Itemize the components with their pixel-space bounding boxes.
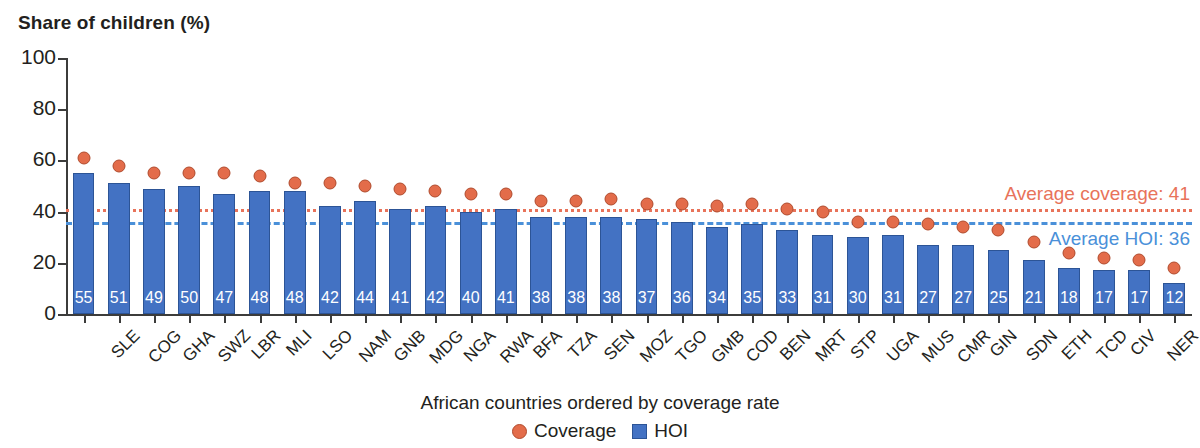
bar[interactable]: 30 bbox=[847, 237, 869, 314]
bar-value-label: 38 bbox=[566, 289, 586, 307]
x-axis-tick bbox=[224, 315, 226, 323]
coverage-dot[interactable] bbox=[710, 200, 723, 213]
x-axis-label-mdg: MDG bbox=[426, 326, 468, 368]
bar[interactable]: 12 bbox=[1163, 283, 1185, 314]
bar[interactable]: 41 bbox=[389, 209, 411, 314]
x-axis-tick bbox=[189, 315, 191, 323]
coverage-dot[interactable] bbox=[640, 197, 653, 210]
y-axis-title: Share of children (%) bbox=[18, 12, 210, 34]
x-axis-label-tza: TZA bbox=[564, 326, 601, 363]
bar[interactable]: 27 bbox=[917, 245, 939, 314]
coverage-dot[interactable] bbox=[816, 205, 829, 218]
coverage-dot[interactable] bbox=[922, 218, 935, 231]
bar-value-label: 33 bbox=[777, 289, 797, 307]
coverage-dot[interactable] bbox=[499, 187, 512, 200]
coverage-dot[interactable] bbox=[605, 192, 618, 205]
bar[interactable]: 35 bbox=[741, 224, 763, 314]
bar[interactable]: 21 bbox=[1023, 260, 1045, 314]
x-axis-label-uga: UGA bbox=[883, 326, 923, 366]
bar[interactable]: 40 bbox=[460, 212, 482, 314]
bar-value-label: 17 bbox=[1094, 289, 1114, 307]
bar-value-label: 42 bbox=[320, 289, 340, 307]
bar[interactable]: 37 bbox=[636, 219, 658, 314]
x-axis-tick bbox=[682, 315, 684, 323]
bar[interactable]: 44 bbox=[354, 201, 376, 314]
bar[interactable]: 41 bbox=[495, 209, 517, 314]
coverage-dot[interactable] bbox=[1062, 246, 1075, 259]
plot-area: 020406080100 Average coverage: 41Average… bbox=[66, 58, 1192, 314]
x-axis-label-cod: COD bbox=[742, 326, 783, 367]
bar[interactable]: 48 bbox=[284, 191, 306, 314]
y-axis-tick-label: 100 bbox=[4, 45, 56, 69]
coverage-dot[interactable] bbox=[464, 187, 477, 200]
bar[interactable]: 55 bbox=[73, 173, 95, 314]
coverage-dot[interactable] bbox=[183, 167, 196, 180]
coverage-dot[interactable] bbox=[359, 180, 372, 193]
bar[interactable]: 31 bbox=[812, 235, 834, 314]
coverage-dot[interactable] bbox=[394, 182, 407, 195]
bar[interactable]: 34 bbox=[706, 227, 728, 314]
x-axis-tick bbox=[471, 315, 473, 323]
coverage-dot[interactable] bbox=[218, 167, 231, 180]
bar[interactable]: 42 bbox=[425, 206, 447, 314]
x-axis-tick bbox=[506, 315, 508, 323]
bar[interactable]: 42 bbox=[319, 206, 341, 314]
coverage-dot[interactable] bbox=[77, 151, 90, 164]
bar[interactable]: 38 bbox=[600, 217, 622, 314]
coverage-dot[interactable] bbox=[746, 197, 759, 210]
x-axis-label-stp: STP bbox=[846, 326, 884, 364]
bar[interactable]: 36 bbox=[671, 222, 693, 314]
coverage-dot[interactable] bbox=[886, 215, 899, 228]
coverage-dot[interactable] bbox=[429, 185, 442, 198]
bar[interactable]: 38 bbox=[530, 217, 552, 314]
coverage-dot[interactable] bbox=[1168, 261, 1181, 274]
coverage-dot[interactable] bbox=[1098, 251, 1111, 264]
legend-circle-icon bbox=[512, 424, 527, 439]
x-axis-label-mli: MLI bbox=[282, 326, 316, 360]
coverage-dot[interactable] bbox=[851, 215, 864, 228]
x-axis-tick bbox=[858, 315, 860, 323]
bar-value-label: 48 bbox=[285, 289, 305, 307]
bar[interactable]: 50 bbox=[178, 186, 200, 314]
x-axis-tick bbox=[435, 315, 437, 323]
bar[interactable]: 17 bbox=[1093, 270, 1115, 314]
x-axis-tick bbox=[295, 315, 297, 323]
bar[interactable]: 51 bbox=[108, 183, 130, 314]
bar[interactable]: 27 bbox=[952, 245, 974, 314]
coverage-dot[interactable] bbox=[781, 203, 794, 216]
bar[interactable]: 31 bbox=[882, 235, 904, 314]
coverage-dot[interactable] bbox=[1133, 254, 1146, 267]
coverage-dot[interactable] bbox=[675, 197, 688, 210]
bar[interactable]: 25 bbox=[988, 250, 1010, 314]
coverage-dot[interactable] bbox=[112, 159, 125, 172]
coverage-dot[interactable] bbox=[570, 195, 583, 208]
x-axis-tick bbox=[330, 315, 332, 323]
x-axis-tick bbox=[1034, 315, 1036, 323]
coverage-dot[interactable] bbox=[535, 195, 548, 208]
y-axis-tick-label: 0 bbox=[4, 301, 56, 325]
bar[interactable]: 47 bbox=[213, 194, 235, 314]
coverage-dot[interactable] bbox=[323, 177, 336, 190]
bar-value-label: 25 bbox=[989, 289, 1009, 307]
x-axis-label-gmb: GMB bbox=[707, 326, 749, 368]
bar[interactable]: 49 bbox=[143, 189, 165, 314]
bar[interactable]: 48 bbox=[249, 191, 271, 314]
coverage-dot[interactable] bbox=[957, 220, 970, 233]
coverage-dot[interactable] bbox=[147, 167, 160, 180]
bar[interactable]: 38 bbox=[565, 217, 587, 314]
x-axis-label-gnb: GNB bbox=[390, 326, 430, 366]
chart-legend: CoverageHOI bbox=[0, 420, 1200, 442]
bar-value-label: 18 bbox=[1059, 289, 1079, 307]
bar[interactable]: 33 bbox=[776, 230, 798, 314]
coverage-dot[interactable] bbox=[992, 223, 1005, 236]
bar[interactable]: 18 bbox=[1058, 268, 1080, 314]
legend-item-coverage[interactable]: Coverage bbox=[512, 420, 616, 442]
coverage-dot[interactable] bbox=[288, 177, 301, 190]
legend-item-hoi[interactable]: HOI bbox=[632, 420, 688, 442]
coverage-dot[interactable] bbox=[1027, 236, 1040, 249]
coverage-dot[interactable] bbox=[253, 169, 266, 182]
bar-value-label: 41 bbox=[496, 289, 516, 307]
x-axis-label-sle: SLE bbox=[107, 326, 144, 363]
bar-value-label: 31 bbox=[883, 289, 903, 307]
bar[interactable]: 17 bbox=[1128, 270, 1150, 314]
